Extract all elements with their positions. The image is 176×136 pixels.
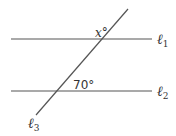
line-l3-label: ℓ3 <box>28 116 40 133</box>
angle-x-text: x° <box>95 26 108 40</box>
line-l3-transversal <box>36 9 128 115</box>
angle-70-label: 70° <box>73 79 94 91</box>
line-l2-label: ℓ2 <box>157 84 169 101</box>
diagram-canvas <box>0 0 176 136</box>
line-l1-label: ℓ1 <box>157 32 169 49</box>
angle-x-label: x° <box>95 27 108 39</box>
angle-70-text: 70° <box>73 78 94 92</box>
line-l2-subscript: 2 <box>163 91 169 101</box>
line-l1-subscript: 1 <box>163 39 169 49</box>
line-l3-subscript: 3 <box>34 123 40 133</box>
